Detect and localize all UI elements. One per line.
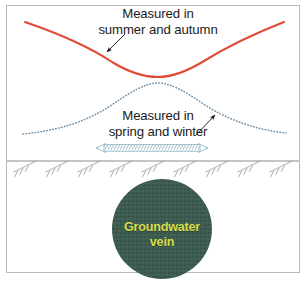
- span-arrow: [96, 144, 208, 153]
- label-summer-line1: Measured in: [84, 6, 232, 22]
- groundwater-vein-figure: Measured in summer and autumn Measured i…: [0, 0, 308, 282]
- label-summer-line2: summer and autumn: [84, 22, 232, 38]
- label-groundwater-vein: Groundwater vein: [112, 220, 212, 249]
- vein-label-line2: vein: [112, 235, 212, 250]
- label-spring-line1: Measured in: [84, 108, 232, 124]
- vein-label-line1: Groundwater: [112, 220, 212, 235]
- label-measured-spring-winter: Measured in spring and winter: [84, 108, 232, 139]
- label-measured-summer-autumn: Measured in summer and autumn: [84, 6, 232, 37]
- label-spring-line2: spring and winter: [84, 124, 232, 140]
- ground-hatch-marks: [14, 161, 292, 177]
